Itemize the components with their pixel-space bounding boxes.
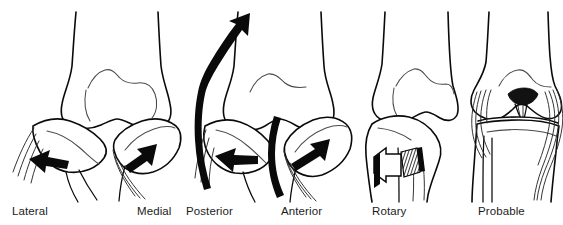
femur-bone-panel1 [61, 12, 171, 129]
label-medial: Medial [137, 205, 171, 217]
label-probable: Probable [478, 205, 525, 217]
knee-instability-figure: Lateral Medial [0, 0, 563, 225]
label-posterior: Posterior [186, 205, 233, 217]
femur-bone-rotary [372, 12, 458, 122]
label-anterior: Anterior [281, 205, 322, 217]
knee-instability-illustration: Lateral Medial [0, 0, 563, 225]
label-rotary: Rotary [372, 205, 407, 217]
rotary-arrow-hatched-band [401, 148, 420, 177]
rotary-arrow-left-tail [374, 153, 380, 188]
label-lateral: Lateral [12, 205, 48, 217]
